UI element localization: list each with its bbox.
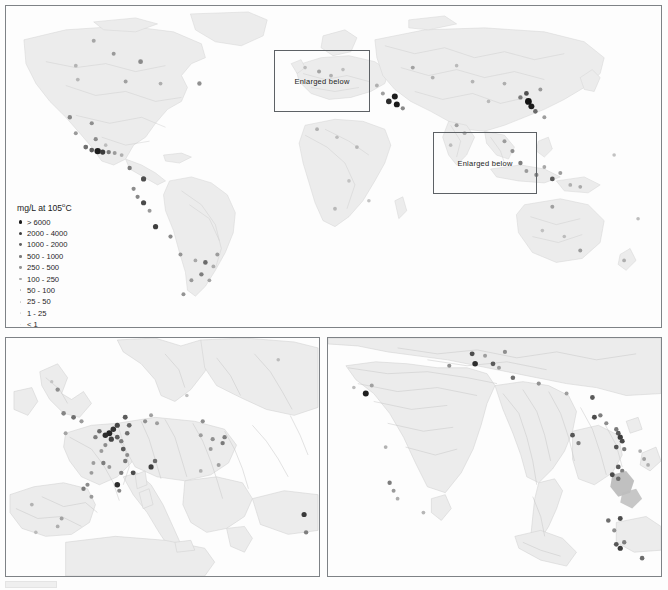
legend-item: 500 - 1000 [15, 251, 99, 262]
legend-item: 250 - 500 [15, 262, 99, 273]
south-asia-inset-panel [327, 337, 662, 577]
legend-item-label: 100 - 250 [27, 275, 59, 284]
legend-item-label: 250 - 500 [27, 263, 59, 272]
legend-item: 50 - 100 [15, 285, 99, 296]
figure-canvas: Enlarged below Enlarged below mg/L at 10… [0, 0, 668, 590]
legend-dot-icon [15, 255, 26, 258]
europe-map-graphic [6, 338, 319, 576]
legend-title-suffix: C [65, 203, 71, 213]
callout-europe: Enlarged below [274, 50, 370, 112]
legend-item-label: 2000 - 4000 [27, 229, 68, 238]
callout-south-asia-label: Enlarged below [434, 159, 536, 168]
legend-item: 1000 - 2000 [15, 239, 99, 250]
south-asia-map-graphic [328, 338, 661, 576]
legend-item: 2000 - 4000 [15, 228, 99, 239]
legend-dot-icon [15, 278, 26, 280]
legend-item-label: < 1 [27, 320, 38, 328]
legend-dot-icon [15, 266, 26, 268]
world-map-panel: Enlarged below Enlarged below mg/L at 10… [5, 5, 662, 328]
legend-dot-icon [15, 243, 26, 246]
legend-item: 25 - 50 [15, 296, 99, 307]
legend-item-label: > 6000 [27, 218, 50, 227]
legend-item-label: 500 - 1000 [27, 252, 63, 261]
legend-dot-icon [15, 301, 26, 303]
print-artifact-bar [5, 581, 57, 588]
legend-item: > 6000 [15, 216, 99, 227]
legend-dot-icon [15, 289, 26, 291]
legend-dot-icon [15, 220, 26, 224]
legend: mg/L at 105oC > 6000 2000 - 4000 1000 - … [15, 202, 99, 328]
legend-dot-icon [15, 312, 26, 314]
legend-title: mg/L at 105oC [17, 202, 99, 213]
legend-item-label: 1 - 25 [27, 309, 46, 318]
legend-item: < 1 [15, 319, 99, 328]
legend-item-label: 1000 - 2000 [27, 240, 68, 249]
legend-item-label: 50 - 100 [27, 286, 55, 295]
legend-item: 1 - 25 [15, 307, 99, 318]
legend-item: 100 - 250 [15, 273, 99, 284]
legend-dot-icon [15, 232, 26, 235]
callout-europe-label: Enlarged below [275, 77, 369, 86]
legend-title-prefix: mg/L at 105 [17, 203, 62, 213]
callout-south-asia: Enlarged below [433, 132, 537, 194]
europe-inset-panel [5, 337, 320, 577]
legend-dot-icon [15, 324, 26, 325]
legend-item-label: 25 - 50 [27, 297, 51, 306]
